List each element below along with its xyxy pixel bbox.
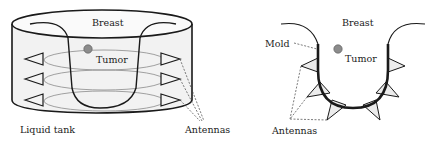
mold-diagram: Breast Mold Tumor Antennas <box>265 17 425 136</box>
antenna-icon <box>301 58 318 72</box>
mold-label: Mold <box>265 38 290 49</box>
tumor-label: Tumor <box>96 54 128 65</box>
liquid-tank-diagram: Breast Tumor Liquid tank Antennas <box>12 10 230 135</box>
antennas-label-left: Antennas <box>184 124 230 135</box>
antenna-icon <box>388 58 405 72</box>
breast-label: Breast <box>342 17 374 28</box>
liquid-tank-label: Liquid tank <box>20 124 75 135</box>
tumor-label: Tumor <box>345 53 377 64</box>
breast-label: Breast <box>92 17 124 28</box>
diagram-canvas: Breast Tumor Liquid tank Antennas Breast… <box>0 0 430 144</box>
tumor-icon <box>84 45 92 53</box>
antennas-label-right: Antennas <box>271 125 317 136</box>
tumor-icon <box>334 45 342 53</box>
leader-lines <box>290 43 327 120</box>
